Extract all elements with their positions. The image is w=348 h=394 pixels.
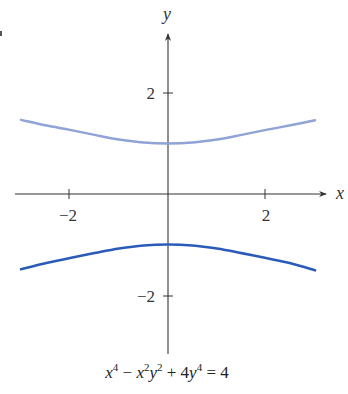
eq-minus: − [118, 363, 136, 382]
eq-y: y [189, 363, 197, 382]
y-tick-label-neg2: −2 [137, 287, 155, 306]
eq-y: y [149, 363, 157, 382]
x-tick-label-pos2: 2 [262, 206, 271, 225]
crop-artifact [0, 31, 2, 36]
eq-x: x [136, 363, 144, 382]
y-tick-label-pos2: 2 [147, 84, 156, 103]
eq-plus: + 4 [163, 363, 190, 382]
x-tick-label-neg2: −2 [59, 206, 77, 225]
equation-caption: x4 − x2y2 + 4y4 = 4 [0, 363, 334, 383]
eq-x: x [105, 363, 113, 382]
y-axis-label: y [161, 4, 171, 24]
graph: −2 2 2 −2 x y [0, 0, 348, 394]
x-axis-label: x [335, 183, 344, 203]
eq-rhs: = 4 [202, 363, 229, 382]
